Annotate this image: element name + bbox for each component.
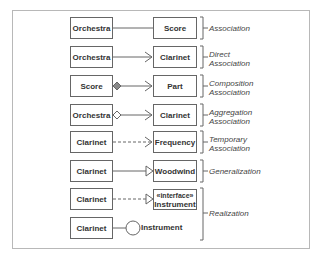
class-box-clarinet: Clarinet [153, 104, 197, 126]
class-box-part: Part [153, 75, 197, 97]
label-line-1: Temporary [209, 135, 250, 144]
class-box-orchestra: Orchestra [70, 46, 113, 68]
class-box-clarinet: Clarinet [70, 131, 113, 153]
class-box-clarinet: Clarinet [70, 188, 113, 210]
class-box-woodwind: Woodwind [153, 160, 197, 182]
class-box-orchestra: Orchestra [70, 104, 113, 126]
label-temporary-association: Temporary Association [209, 135, 250, 153]
label-line-2: Association [209, 144, 250, 153]
label-generalization: Generalization [209, 167, 261, 176]
class-box-orchestra: Orchestra [70, 17, 113, 39]
label-composition-association: Composition Association [209, 79, 253, 97]
label-direct-association: Direct Association [209, 50, 250, 68]
label-line-2: Association [209, 117, 252, 126]
label-line-1: Aggregation [209, 108, 252, 117]
class-box-score: Score [70, 75, 113, 97]
lollipop-interface-label: Instrument [141, 223, 182, 232]
stereotype-label: «interface» [157, 191, 194, 200]
class-box-frequency: Frequency [153, 131, 197, 153]
label-line-2: Association [209, 88, 253, 97]
class-box-clarinet: Clarinet [70, 160, 113, 182]
label-line-2: Association [209, 59, 250, 68]
class-box-clarinet: Clarinet [153, 46, 197, 68]
label-aggregation-association: Aggregation Association [209, 108, 252, 126]
label-line-1: Direct [209, 50, 250, 59]
interface-box-instrument: «interface» Instrument [153, 189, 197, 210]
label-association: Association [209, 24, 250, 33]
class-box-score: Score [153, 17, 197, 39]
interface-name: Instrument [154, 200, 195, 209]
label-realization: Realization [209, 209, 249, 218]
label-line-1: Composition [209, 79, 253, 88]
class-box-clarinet: Clarinet [70, 217, 113, 239]
